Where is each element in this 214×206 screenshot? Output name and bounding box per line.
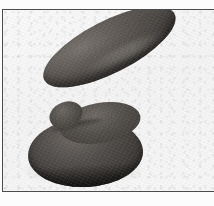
stone-artifact xyxy=(3,10,214,191)
photograph xyxy=(3,10,214,191)
frame-rule-bottom xyxy=(2,191,214,192)
figure-page: Dark grey stone implement: an elongated … xyxy=(0,0,214,206)
